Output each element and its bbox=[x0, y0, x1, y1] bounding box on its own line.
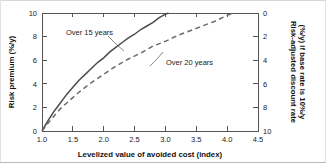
y2-tick-label: 10 bbox=[263, 127, 271, 136]
y-tick-label: 0 bbox=[33, 127, 37, 136]
y2-axis-title-line1: Risk-adjusted discount rate bbox=[289, 21, 298, 124]
y-tick-label: 6 bbox=[33, 56, 37, 65]
y-tick-label: 2 bbox=[33, 103, 37, 112]
y2-tick-label: 2 bbox=[263, 32, 267, 41]
y2-tick-label: 0 bbox=[263, 9, 267, 18]
x-tick-label: 4.0 bbox=[222, 135, 232, 144]
x-tick-label: 2.0 bbox=[98, 135, 108, 144]
x-tick-label: 1.0 bbox=[37, 135, 47, 144]
y2-axis-title-line2: (%/y) if base rate is 10%/y bbox=[298, 25, 307, 121]
y2-tick-label: 4 bbox=[263, 56, 267, 65]
y-axis-ticks bbox=[42, 13, 47, 131]
x-tick-label: 1.5 bbox=[68, 135, 78, 144]
x-tick-label: 3.5 bbox=[191, 135, 201, 144]
chart-canvas: 1.0 1.5 2.0 2.5 3.0 3.5 4.0 4.5 0 2 4 6 … bbox=[0, 0, 326, 165]
annotation-over-15-years: Over 15 years bbox=[66, 28, 113, 37]
chart-figure: 1.0 1.5 2.0 2.5 3.0 3.5 4.0 4.5 0 2 4 6 … bbox=[0, 0, 326, 165]
y-tick-label: 8 bbox=[33, 32, 37, 41]
y-axis-title: Risk premium (%/y) bbox=[7, 35, 16, 108]
leader-line-over-20-years bbox=[150, 52, 163, 66]
y-tick-label: 10 bbox=[29, 9, 37, 18]
y2-axis-ticks bbox=[253, 13, 258, 131]
annotation-over-20-years: Over 20 years bbox=[166, 58, 213, 67]
x-axis-title: Levelized value of avoided cost (index) bbox=[78, 150, 223, 159]
y2-tick-label: 6 bbox=[263, 80, 267, 89]
y2-tick-label: 8 bbox=[263, 103, 267, 112]
x-tick-label: 4.5 bbox=[253, 135, 263, 144]
x-tick-label: 3.0 bbox=[160, 135, 170, 144]
y-tick-label: 4 bbox=[33, 80, 37, 89]
x-tick-label: 2.5 bbox=[129, 135, 139, 144]
